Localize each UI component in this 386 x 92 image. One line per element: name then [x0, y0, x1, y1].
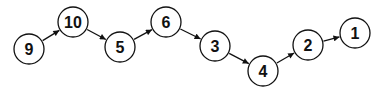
- node-9: 9: [14, 34, 44, 64]
- edge-arrow-5-to-6: [134, 30, 152, 40]
- node-label: 2: [304, 37, 313, 54]
- edge-arrow-3-to-4: [229, 53, 249, 63]
- node-1: 1: [340, 18, 370, 48]
- node-6: 6: [151, 7, 181, 37]
- edge-arrow-4-to-2: [277, 53, 294, 63]
- node-label: 4: [259, 63, 268, 80]
- node-10: 10: [58, 7, 88, 37]
- node-3: 3: [200, 31, 230, 61]
- node-label: 6: [162, 14, 171, 31]
- node-label: 9: [25, 41, 34, 58]
- node-2: 2: [293, 30, 323, 60]
- linked-list-diagram: 910563421: [0, 0, 386, 92]
- node-label: 5: [116, 39, 125, 56]
- nodes-group: 910563421: [14, 7, 370, 86]
- node-label: 10: [64, 14, 82, 31]
- edge-arrow-6-to-3: [180, 29, 200, 39]
- node-5: 5: [105, 32, 135, 62]
- edge-arrow-9-to-10: [43, 30, 60, 40]
- node-4: 4: [248, 56, 278, 86]
- edge-arrow-10-to-5: [87, 30, 106, 40]
- diagram-svg: 910563421: [0, 0, 386, 92]
- node-label: 3: [211, 38, 220, 55]
- node-label: 1: [351, 25, 360, 42]
- edge-arrow-2-to-1: [324, 37, 340, 41]
